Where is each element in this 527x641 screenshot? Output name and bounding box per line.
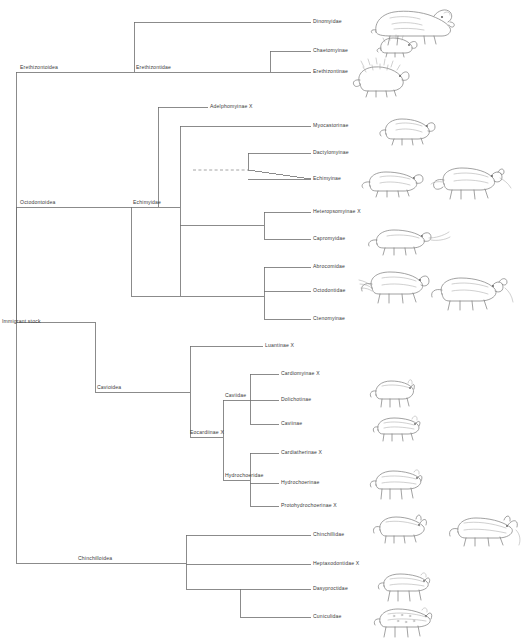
tip-label-cardiatherinae: Cardiatherinae X: [281, 450, 322, 455]
rat-illustration: [430, 162, 512, 202]
paca-illustration: [372, 604, 434, 638]
tip-label-capromyidae: Capromyidae: [313, 236, 345, 241]
tip-label-chaetomyinae: Chaetomyinae: [313, 48, 348, 53]
capybara-illustration: [368, 465, 424, 501]
tip-label-ctenomyinae: Ctenomyinae: [313, 316, 345, 321]
tip-label-echimyinae: Echimyinae: [313, 176, 341, 181]
tip-label-dinomyidae: Dinomyidae: [313, 19, 342, 24]
tip-label-cuniculidae: Cuniculidae: [313, 614, 342, 619]
branch-echimyinae: [248, 170, 311, 179]
cladogram-figure: Immigrant stock Erethizontoidea Octodont…: [0, 0, 527, 641]
myocastor-illustration: [378, 112, 436, 146]
node-label-erethizontidae: Erethizontidae: [136, 65, 171, 70]
tip-label-myocastorinae: Myocastorinae: [313, 123, 348, 128]
chaetomys-illustration: [375, 32, 419, 58]
erethizon-illustration: [350, 58, 410, 98]
tip-label-heptaxodontidae: Heptaxodontidae X: [313, 561, 359, 566]
tip-label-adelphomyinae: Adelphomyinae X: [210, 104, 253, 109]
agouti-illustration: [376, 568, 432, 602]
tip-label-hydrochoerinae: Hydrochoerinae: [281, 480, 319, 485]
tip-label-caviinae: Caviinae: [281, 421, 302, 426]
viscacha-illustration: [448, 512, 522, 548]
tip-label-dolichotinae: Dolichotinae: [281, 397, 311, 402]
node-label-echimyidae: Echimyidae: [133, 200, 161, 205]
tip-label-dasyproctidae: Dasyproctidae: [313, 586, 348, 591]
tip-label-dactylomyinae: Dactylomyinae: [313, 150, 349, 155]
octodon-illustration: [358, 262, 430, 306]
node-label-hydrochoeridae: Hydrochoeridae: [225, 473, 263, 478]
tip-label-protohydrochoerinae: Protohydrochoerinae X: [281, 503, 337, 508]
node-label-chinchilloidea: Chinchilloidea: [78, 556, 112, 561]
tip-label-abrocomidae: Abrocomidae: [313, 264, 345, 269]
node-label-cavioidea: Cavioidea: [97, 385, 121, 390]
tip-label-chinchillidae: Chinchillidae: [313, 532, 344, 537]
node-label-octodontoidea: Octodontoidea: [20, 200, 55, 205]
tip-label-octodontidae: Octodontidae: [313, 288, 345, 293]
node-label-erethizontoidea: Erethizontoidea: [20, 65, 58, 70]
tip-label-heteropsomyinae: Heteropsomyinae X: [313, 209, 361, 214]
echimys-illustration: [360, 166, 424, 198]
root-label: Immigrant stock: [2, 319, 41, 324]
node-label-eocardiinae: Eocardiinae X: [190, 430, 224, 435]
chinchilla-illustration: [372, 512, 428, 544]
tip-label-luantinae: Luantinae X: [265, 343, 294, 348]
cavy-illustration: [368, 375, 416, 409]
node-label-caviidae: Caviidae: [225, 393, 246, 398]
ctenomys-illustration: [430, 270, 514, 312]
guineapig-illustration: [372, 412, 422, 442]
tip-label-cardiomyinae: Cardiomyinae X: [281, 371, 320, 376]
tip-label-erethizontinae: Erethizontinae: [313, 69, 348, 74]
capromys-illustration: [365, 222, 451, 262]
